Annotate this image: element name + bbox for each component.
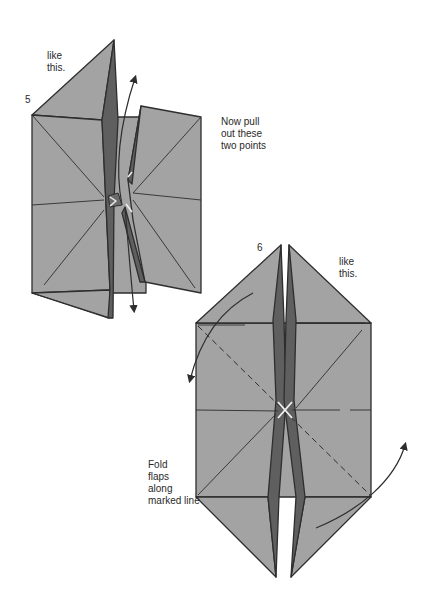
step-6-instruction: Fold flaps along marked line — [148, 459, 200, 507]
step-6-left-bottom-flap — [196, 497, 276, 577]
step-5-left-bottom-flap — [32, 290, 110, 318]
step-5-figure — [32, 40, 201, 318]
step-5-left-top-flap — [32, 40, 114, 120]
step-6-left-top-flap — [196, 245, 281, 323]
step-6-caption: like this. — [339, 256, 357, 280]
origami-diagram — [0, 0, 430, 613]
step-6-right-top-flap — [289, 245, 371, 323]
step-6-number: 6 — [257, 242, 263, 253]
step-5-number: 5 — [25, 94, 31, 105]
step-5-caption: like this. — [47, 50, 65, 74]
step-5-instruction: Now pull out these two points — [221, 116, 266, 152]
step-6-figure — [190, 245, 405, 577]
